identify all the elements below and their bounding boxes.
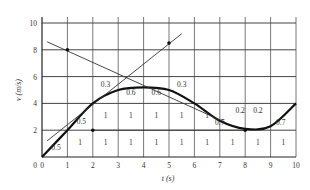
y-tick-label: 10: [30, 19, 38, 28]
area-annotation: 1: [104, 111, 108, 120]
y-tick-label: 8: [33, 46, 37, 55]
data-point: [91, 128, 95, 132]
x-tick-label: 3: [116, 161, 120, 170]
area-annotation: 1: [104, 138, 108, 147]
area-annotation: 1: [180, 111, 184, 120]
area-annotation: 0.7: [215, 118, 225, 127]
area-annotation: 1: [231, 138, 235, 147]
data-point: [66, 48, 70, 52]
area-annotation: 0.5: [77, 117, 87, 126]
area-annotation: 0.3: [101, 80, 111, 89]
x-axis-label: t (s): [162, 174, 175, 183]
area-annotation: 0.5: [51, 143, 61, 152]
x-tick-label: 7: [218, 161, 222, 170]
x-tick-label: 9: [269, 161, 273, 170]
area-annotation: 0.6: [126, 88, 136, 97]
y-axis-label: v (m/s): [14, 79, 23, 101]
x-tick-label: 4: [142, 161, 146, 170]
area-annotation: 1: [205, 111, 209, 120]
annotations: 0.51111111110.5111110.70.20.20.70.30.60.…: [51, 80, 285, 152]
area-annotation: 0.6: [152, 88, 162, 97]
area-annotation: 0.2: [235, 106, 245, 115]
data-point: [243, 128, 247, 132]
x-tick-label: 0: [40, 161, 44, 170]
origin-label: 0: [33, 161, 37, 170]
area-annotation: 1: [78, 138, 82, 147]
area-annotation: 1: [256, 138, 260, 147]
velocity-time-chart: 0.51111111110.5111110.70.20.20.70.30.60.…: [0, 0, 310, 190]
data-point: [167, 41, 171, 45]
area-annotation: 1: [129, 111, 133, 120]
area-annotation: 0.3: [177, 80, 187, 89]
grid-lines: [42, 17, 296, 157]
area-annotation: 1: [129, 138, 133, 147]
area-annotation: 1: [154, 138, 158, 147]
y-tick-label: 4: [33, 99, 37, 108]
y-tick-label: 2: [33, 126, 37, 135]
area-annotation: 0.7: [276, 118, 286, 127]
x-tick-label: 8: [243, 161, 247, 170]
area-annotation: 1: [180, 138, 184, 147]
x-tick-label: 2: [91, 161, 95, 170]
x-tick-label: 10: [292, 161, 300, 170]
area-annotation: 1: [205, 138, 209, 147]
reference-line: [47, 42, 225, 122]
x-tick-label: 6: [193, 161, 197, 170]
area-annotation: 0.2: [253, 106, 263, 115]
area-annotation: 1: [281, 138, 285, 147]
x-tick-label: 1: [66, 161, 70, 170]
area-annotation: 1: [154, 111, 158, 120]
y-tick-label: 6: [33, 73, 37, 82]
x-tick-label: 5: [167, 161, 171, 170]
